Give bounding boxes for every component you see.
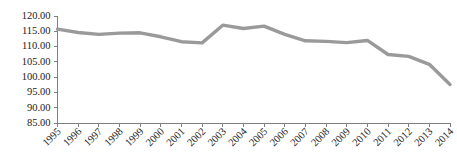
x-axis-group: 1995199619971998199920002001200220032004…: [40, 123, 456, 148]
x-tick-label: 1996: [61, 126, 84, 149]
y-tick-label: 90.00: [27, 102, 51, 113]
x-tick-labels: 1995199619971998199920002001200220032004…: [40, 125, 456, 148]
x-tick-label: 2012: [391, 126, 414, 149]
y-tick-label: 105.00: [22, 56, 51, 67]
x-tick-label: 2005: [247, 126, 270, 149]
y-axis-group: 120.00115.00110.00105.00100.0095.0090.00…: [22, 10, 58, 128]
x-tick-label: 2004: [226, 125, 249, 148]
x-tick-label: 2007: [288, 126, 311, 149]
x-tick-label: 2003: [206, 126, 229, 149]
x-tick-label: 2002: [185, 126, 208, 149]
y-tick-label: 120.00: [22, 10, 51, 21]
series-line-1: [58, 25, 451, 84]
y-tick-marks: [54, 16, 58, 123]
chart-canvas: 120.00115.00110.00105.00100.0095.0090.00…: [0, 0, 457, 166]
x-tick-label: 2006: [268, 126, 291, 149]
plot-series-group: [58, 25, 451, 84]
x-tick-label: 1997: [82, 126, 105, 149]
x-tick-label: 2009: [329, 126, 352, 149]
y-tick-label: 85.00: [27, 117, 51, 128]
x-tick-label: 1998: [102, 126, 125, 149]
x-tick-label: 2001: [164, 126, 187, 149]
y-tick-label: 115.00: [22, 25, 51, 36]
x-tick-label: 2014: [433, 125, 456, 148]
y-tick-labels: 120.00115.00110.00105.00100.0095.0090.00…: [22, 10, 51, 128]
x-tick-label: 1995: [40, 126, 63, 149]
line-chart: 120.00115.00110.00105.00100.0095.0090.00…: [0, 0, 457, 166]
y-tick-label: 95.00: [27, 86, 51, 97]
x-tick-label: 2013: [412, 126, 435, 149]
x-tick-label: 2011: [371, 126, 393, 148]
x-tick-label: 1999: [123, 126, 146, 149]
y-tick-label: 100.00: [22, 71, 51, 82]
x-tick-label: 2008: [309, 126, 332, 149]
y-tick-label: 110.00: [22, 40, 51, 51]
x-tick-label: 2010: [350, 126, 373, 149]
x-tick-label: 2000: [144, 126, 167, 149]
